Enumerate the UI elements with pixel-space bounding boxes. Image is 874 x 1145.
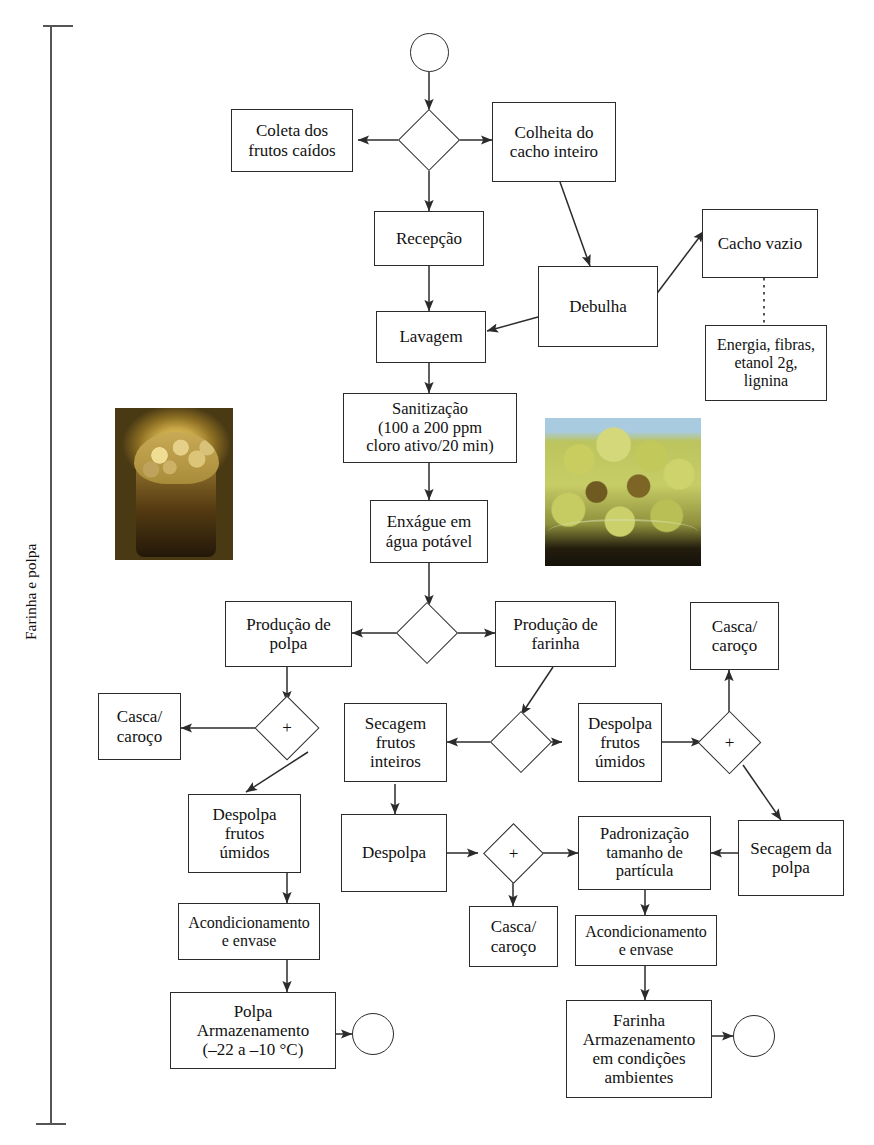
node-label: Casca/ caroço — [117, 707, 162, 745]
end-circle-polpa — [352, 1013, 394, 1055]
start-circle — [410, 33, 449, 72]
node-coleta-frutos-caidos[interactable]: Coleta dos frutos caídos — [231, 109, 353, 172]
plus-sign-direita: + — [707, 720, 752, 765]
end-circle-farinha — [733, 1015, 775, 1057]
node-label: Casca/ caroço — [491, 917, 536, 955]
connector-layer — [0, 0, 874, 1145]
node-label: Secagem da polpa — [750, 839, 832, 877]
node-cacho-vazio[interactable]: Cacho vazio — [702, 209, 818, 278]
plus-sign-polpa: + — [264, 705, 310, 751]
node-despolpa[interactable]: Despolpa — [341, 814, 447, 892]
section-label-farinha-e-polpa: Farinha e polpa — [22, 544, 40, 640]
decision-producao-rota — [396, 602, 458, 664]
node-label: Produção de farinha — [513, 615, 598, 653]
node-label: Lavagem — [399, 327, 462, 346]
decision-harvest-method — [398, 109, 460, 171]
node-lavagem[interactable]: Lavagem — [376, 311, 486, 363]
node-enxague-agua-potavel[interactable]: Enxágue em água potável — [370, 500, 488, 563]
node-label: Secagem frutos inteiros — [365, 714, 426, 771]
node-secagem-da-polpa[interactable]: Secagem da polpa — [738, 820, 844, 896]
node-debulha[interactable]: Debulha — [538, 266, 658, 347]
node-recepcao[interactable]: Recepção — [374, 211, 484, 266]
node-label: Despolpa frutos úmidos — [212, 805, 276, 862]
node-farinha-armazenamento[interactable]: Farinha Armazenamento em condições ambie… — [566, 1000, 712, 1098]
node-label: Enxágue em água potável — [386, 512, 472, 550]
node-acondicionamento-envase-farinha[interactable]: Acondicionamento e envase — [575, 915, 717, 966]
node-producao-de-farinha[interactable]: Produção de farinha — [495, 601, 616, 667]
decision-farinha-rota — [490, 711, 552, 773]
node-label: Farinha Armazenamento em condições ambie… — [583, 1011, 695, 1087]
node-label: Debulha — [569, 297, 627, 316]
node-secagem-frutos-inteiros[interactable]: Secagem frutos inteiros — [344, 703, 447, 782]
node-label: Produção de polpa — [246, 615, 331, 653]
plus-sign-despolpa: + — [492, 832, 535, 875]
node-despolpa-frutos-umidos-esquerda[interactable]: Despolpa frutos úmidos — [188, 794, 301, 873]
node-despolpa-frutos-umidos-direita[interactable]: Despolpa frutos úmidos — [578, 703, 662, 782]
node-label: Casca/ caroço — [712, 617, 757, 655]
node-label: Sanitização (100 a 200 ppm cloro ativo/2… — [366, 400, 493, 455]
node-label: Coleta dos frutos caídos — [248, 121, 335, 159]
node-label: Despolpa — [362, 843, 426, 862]
node-label: Acondicionamento e envase — [188, 914, 310, 950]
node-casca-caroco-centro[interactable]: Casca/ caroço — [469, 906, 558, 967]
node-sanitizacao[interactable]: Sanitização (100 a 200 ppm cloro ativo/2… — [343, 393, 517, 463]
node-energia-fibras-etanol-lignina[interactable]: Energia, fibras, etanol 2g, lignina — [705, 325, 827, 401]
bracket-vertical-line — [50, 25, 52, 1125]
photo-farinha-dish-rim — [548, 519, 698, 545]
node-label: Energia, fibras, etanol 2g, lignina — [717, 336, 815, 390]
photo-polpa — [115, 408, 233, 560]
bracket-bottom-tick — [36, 1123, 66, 1125]
node-polpa-armazenamento[interactable]: Polpa Armazenamento (–22 a –10 °C) — [170, 992, 336, 1069]
node-label: Padronização tamanho de partícula — [600, 825, 689, 880]
node-acondicionamento-envase-polpa[interactable]: Acondicionamento e envase — [178, 903, 320, 960]
node-label: Recepção — [396, 229, 462, 248]
node-label: Cacho vazio — [718, 234, 803, 253]
node-casca-caroco-esquerda[interactable]: Casca/ caroço — [98, 693, 181, 760]
node-producao-de-polpa[interactable]: Produção de polpa — [225, 601, 352, 667]
photo-polpa-lump — [134, 432, 219, 484]
flowchart-canvas: Farinha e polpa — [0, 0, 874, 1145]
node-label: Despolpa frutos úmidos — [588, 714, 652, 771]
node-padronizacao-tamanho-particula[interactable]: Padronização tamanho de partícula — [578, 816, 711, 890]
photo-farinha — [545, 418, 701, 566]
bracket-top-tick — [43, 25, 73, 27]
node-label: Acondicionamento e envase — [585, 923, 707, 959]
node-label: Colheita do cacho inteiro — [510, 123, 598, 161]
node-casca-caroco-direita[interactable]: Casca/ caroço — [690, 602, 779, 670]
node-label: Polpa Armazenamento (–22 a –10 °C) — [197, 1002, 309, 1059]
node-colheita-cacho-inteiro[interactable]: Colheita do cacho inteiro — [492, 102, 616, 182]
